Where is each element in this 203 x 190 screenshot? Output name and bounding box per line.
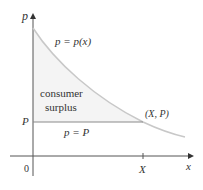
- point-label: (X, P): [145, 108, 170, 120]
- x-axis-label: x: [185, 160, 191, 172]
- y-axis-label: p: [21, 9, 28, 23]
- region-label-line1: consumer: [40, 87, 83, 99]
- origin-label: 0: [24, 163, 29, 174]
- price-line-label: p = P: [63, 126, 89, 138]
- region-label-line2: surplus: [45, 101, 77, 113]
- y-tick-label: P: [21, 115, 29, 127]
- x-tick-label: X: [138, 163, 147, 175]
- consumer-surplus-diagram: p x 0 p = p(x) consumer surplus (X, P) p…: [0, 0, 203, 190]
- curve-label: p = p(x): [54, 35, 91, 48]
